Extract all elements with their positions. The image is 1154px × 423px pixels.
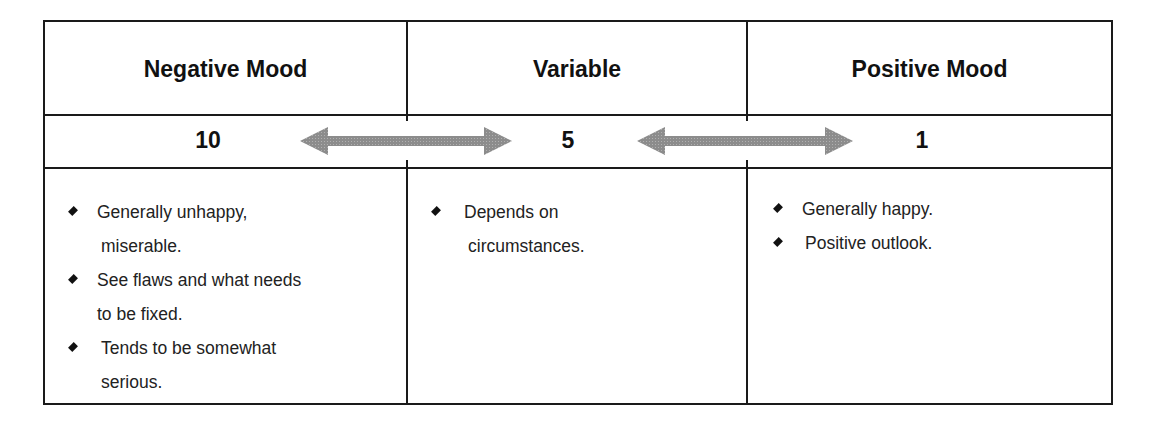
list-item: Depends on circumstances. [432,195,585,263]
list-item: Generally happy. [774,192,933,226]
scale-value-10: 10 [195,114,221,167]
header-negative-mood: Negative Mood [144,56,308,83]
list-item: Tends to be somewhat serious. [69,331,301,399]
diamond-bullet-icon [773,237,783,247]
variable-mood-traits: Depends on circumstances. [432,195,585,263]
diamond-bullet-icon [68,342,78,352]
scale-value-1: 1 [916,114,929,167]
list-item: See flaws and what needs to be fixed. [69,263,301,331]
header-positive-mood: Positive Mood [852,56,1008,83]
header-row: Negative Mood Variable Positive Mood [45,22,1111,116]
header-cell-variable: Variable [406,22,746,114]
divider-tick [406,160,408,167]
details-row: Generally unhappy, miserable. See flaws … [45,167,1111,403]
double-arrow-icon [300,126,512,156]
list-item: Positive outlook. [774,226,933,260]
divider-tick [746,114,748,121]
diamond-bullet-icon [773,203,783,213]
scale-row: 10 5 1 [45,114,1111,169]
list-item: Generally unhappy, miserable. [69,195,301,263]
details-cell-negative: Generally unhappy, miserable. See flaws … [45,167,406,403]
divider-tick [746,160,748,167]
scale-value-5: 5 [562,114,575,167]
diamond-bullet-icon [431,206,441,216]
header-cell-negative: Negative Mood [45,22,406,114]
mood-scale-table: Negative Mood Variable Positive Mood 10 … [43,20,1113,405]
diamond-bullet-icon [68,206,78,216]
header-cell-positive: Positive Mood [746,22,1111,114]
header-variable: Variable [533,56,621,83]
diamond-bullet-icon [68,274,78,284]
negative-mood-traits: Generally unhappy, miserable. See flaws … [69,195,301,399]
positive-mood-traits: Generally happy. Positive outlook. [774,192,933,260]
double-arrow-icon [637,126,853,156]
details-cell-positive: Generally happy. Positive outlook. [746,167,1111,403]
divider-tick [406,114,408,121]
details-cell-variable: Depends on circumstances. [406,167,746,403]
